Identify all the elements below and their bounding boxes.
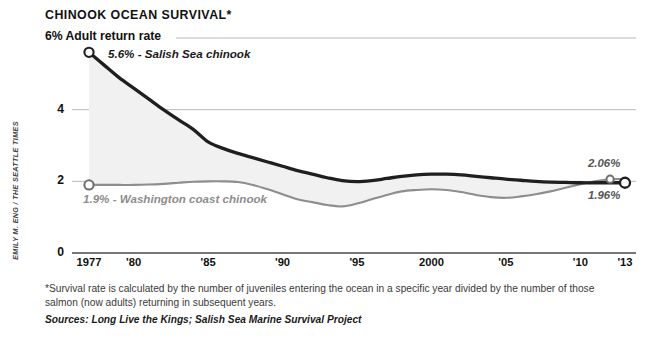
marker-salish-start — [84, 48, 93, 57]
footnote-methodology: *Survival rate is calculated by the numb… — [45, 282, 625, 309]
x-tick-label-85: '85 — [201, 256, 216, 268]
marker-washington-start — [84, 180, 93, 189]
marker-washington-end — [607, 176, 614, 183]
x-tick-label-90: '90 — [275, 256, 290, 268]
x-tick-label-2000: 2000 — [419, 256, 444, 268]
annotation-washington-end: 2.06% — [588, 157, 620, 169]
x-tick-label-13: '13 — [617, 256, 632, 268]
y-tick-label-4: 4 — [42, 102, 64, 116]
x-tick-label-95: '95 — [349, 256, 364, 268]
chinook-ocean-survival-chart: EMILY M. ENG / THE SEATTLE TIMES CHINOOK… — [0, 0, 651, 342]
x-tick-label-80: '80 — [126, 256, 141, 268]
x-tick-label-10: '10 — [573, 256, 588, 268]
annotation-washington-start: 1.9% - Washington coast chinook — [83, 192, 267, 205]
y-tick-label-0: 0 — [42, 245, 64, 259]
annotation-salish-start: 5.6% - Salish Sea chinook — [108, 47, 250, 60]
annotation-salish-end: 1.96% — [588, 189, 620, 201]
x-tick-label-1977: 1977 — [77, 256, 102, 268]
marker-salish-end — [620, 178, 630, 188]
chart-canvas — [0, 0, 651, 275]
footnote-sources: Sources: Long Live the Kings; Salish Sea… — [45, 313, 625, 327]
footnote-block: *Survival rate is calculated by the numb… — [45, 282, 625, 327]
y-tick-label-2: 2 — [42, 173, 64, 187]
plot-area: 024 1977'80'85'90'952000'05'10'13 5.6% -… — [0, 0, 651, 275]
x-tick-label-05: '05 — [498, 256, 513, 268]
